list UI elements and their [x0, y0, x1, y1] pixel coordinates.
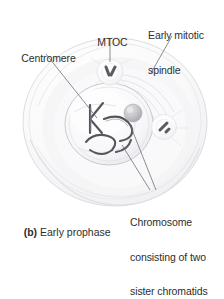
label-chromosome-line3: sister chromatids: [130, 286, 208, 298]
label-centromere-text: Centromere: [21, 52, 75, 64]
figure-caption: (b) Early prophase: [12, 214, 111, 250]
label-chromosome-line2: consisting of two: [130, 252, 208, 264]
mtoc-top: [97, 59, 123, 85]
label-chromosome-sister-chromatids: Chromosome consisting of two sister chro…: [130, 194, 208, 299]
label-early-mitotic-spindle: Early mitotic spindle: [148, 7, 204, 99]
label-spindle-line2: spindle: [148, 65, 204, 77]
label-chromosome-line1: Chromosome: [130, 217, 208, 229]
caption-tag: (b): [24, 226, 37, 238]
label-spindle-line1: Early mitotic: [148, 30, 204, 42]
caption-text: Early prophase: [37, 226, 111, 238]
nucleolus: [124, 104, 142, 122]
label-mtoc: MTOC: [86, 25, 128, 60]
label-mtoc-text: MTOC: [97, 36, 127, 48]
label-centromere: Centromere: [10, 41, 76, 76]
mtoc-right: [152, 115, 177, 140]
